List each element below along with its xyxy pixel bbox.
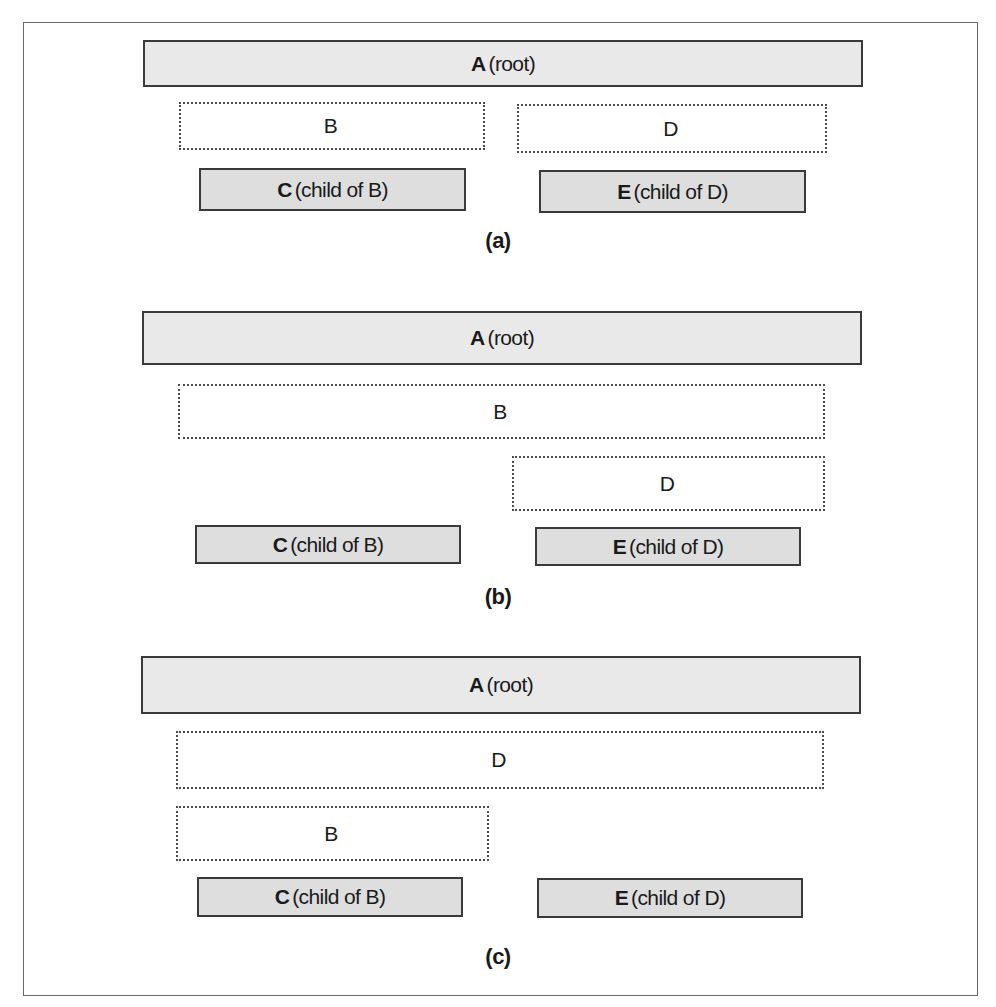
figure-caption: (b) bbox=[485, 584, 512, 610]
node-sublabel: (child of D) bbox=[631, 886, 725, 910]
node-label: C bbox=[273, 533, 288, 557]
node-d: D bbox=[512, 456, 825, 511]
node-sublabel: (child of B) bbox=[295, 178, 388, 202]
figure-frame bbox=[23, 22, 978, 996]
node-label: D bbox=[663, 117, 678, 141]
node-label: A bbox=[470, 326, 485, 350]
node-label: A bbox=[471, 52, 486, 76]
node-b: B bbox=[176, 806, 489, 861]
node-label: E bbox=[615, 886, 628, 910]
node-a-root: A(root) bbox=[143, 40, 863, 87]
node-sublabel: (child of D) bbox=[634, 180, 728, 204]
node-label: C bbox=[277, 178, 292, 202]
figure-caption: (c) bbox=[485, 944, 510, 970]
node-e-child-of-d: E(child of D) bbox=[535, 527, 801, 566]
node-label: E bbox=[613, 535, 626, 559]
node-label: C bbox=[275, 885, 290, 909]
node-a-root: A(root) bbox=[142, 311, 862, 365]
node-sublabel: (root) bbox=[489, 52, 536, 76]
node-sublabel: (root) bbox=[487, 673, 534, 697]
node-label: E bbox=[617, 180, 630, 204]
node-label: B bbox=[324, 822, 337, 846]
node-sublabel: (child of B) bbox=[290, 533, 383, 557]
node-sublabel: (child of B) bbox=[292, 885, 385, 909]
node-a-root: A(root) bbox=[141, 656, 861, 714]
node-b: B bbox=[178, 384, 825, 439]
node-d: D bbox=[517, 104, 827, 153]
node-b: B bbox=[179, 102, 485, 150]
node-label: D bbox=[491, 748, 506, 772]
node-label: B bbox=[493, 400, 506, 424]
figure-caption: (a) bbox=[485, 228, 510, 254]
node-label: A bbox=[469, 673, 484, 697]
node-c-child-of-b: C(child of B) bbox=[195, 525, 461, 564]
node-d: D bbox=[176, 731, 824, 789]
node-c-child-of-b: C(child of B) bbox=[199, 168, 466, 211]
node-label: B bbox=[324, 114, 337, 138]
node-e-child-of-d: E(child of D) bbox=[539, 170, 806, 213]
node-e-child-of-d: E(child of D) bbox=[537, 878, 803, 918]
node-c-child-of-b: C(child of B) bbox=[197, 877, 463, 917]
node-sublabel: (root) bbox=[488, 326, 535, 350]
node-label: D bbox=[660, 472, 675, 496]
node-sublabel: (child of D) bbox=[629, 535, 723, 559]
